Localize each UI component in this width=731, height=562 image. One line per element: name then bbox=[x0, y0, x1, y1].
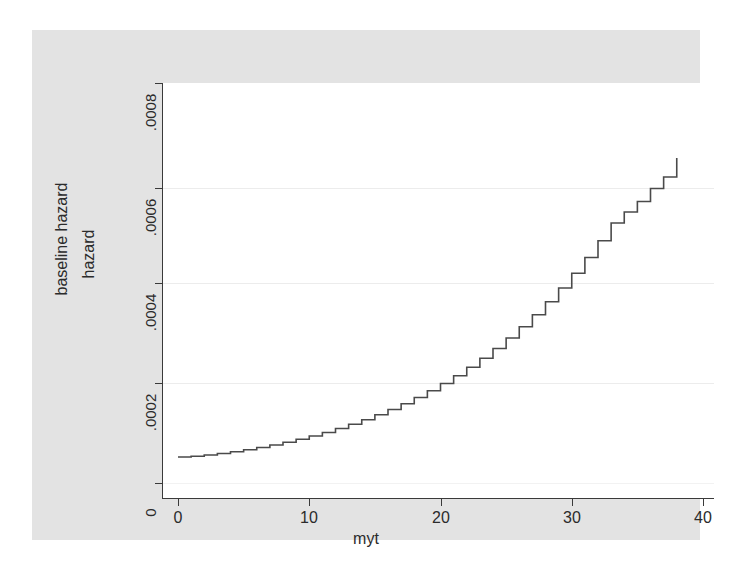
x-tick-label-30: 30 bbox=[542, 509, 602, 527]
gridline-0006 bbox=[163, 188, 714, 189]
x-tick-0 bbox=[178, 498, 179, 506]
x-tick-label-40: 40 bbox=[673, 509, 731, 527]
x-axis-line bbox=[162, 498, 714, 499]
gridline-0002 bbox=[163, 383, 714, 384]
y-axis-line bbox=[162, 83, 163, 499]
chart-figure: 0 .0002 .0004 .0006 .0008 0 10 20 30 40 … bbox=[32, 30, 700, 540]
plot-area bbox=[163, 83, 714, 498]
y-tick-label-0004: .0004 bbox=[142, 285, 159, 341]
y-tick-label-0006: .0006 bbox=[142, 190, 159, 246]
x-tick-40 bbox=[703, 498, 704, 506]
y-axis-title-outer: baseline hazard bbox=[53, 169, 71, 309]
x-tick-label-0: 0 bbox=[148, 509, 208, 527]
y-axis-title-inner: hazard bbox=[80, 194, 98, 314]
x-tick-label-10: 10 bbox=[279, 509, 339, 527]
gridline-0004 bbox=[163, 283, 714, 284]
x-tick-30 bbox=[572, 498, 573, 506]
x-tick-10 bbox=[309, 498, 310, 506]
x-tick-label-20: 20 bbox=[411, 509, 471, 527]
y-tick-label-0002: .0002 bbox=[142, 385, 159, 441]
x-axis-title: myt bbox=[32, 530, 700, 548]
x-tick-20 bbox=[441, 498, 442, 506]
gridline-0000 bbox=[163, 483, 714, 484]
y-tick-label-0008: .0008 bbox=[142, 85, 159, 141]
